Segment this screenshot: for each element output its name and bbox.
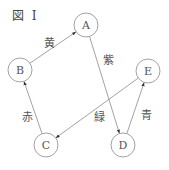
node-label-c: C [42, 139, 50, 152]
edge-label-d-e: 青 [141, 109, 152, 122]
edge-label-c-b: 赤 [22, 111, 33, 124]
edge-label-a-d: 紫 [103, 54, 114, 67]
edge-e-to-c [56, 78, 139, 138]
edges-group: 黄紫赤緑青 [22, 32, 152, 138]
node-label-b: B [16, 64, 24, 77]
edge-label-e-c: 緑 [94, 110, 105, 124]
node-label-a: A [81, 19, 91, 32]
edge-c-to-b [24, 81, 42, 133]
directed-graph: 黄紫赤緑青 ABCDE [0, 0, 169, 170]
nodes-group: ABCDE [8, 13, 160, 157]
node-label-e: E [144, 65, 152, 78]
edge-label-b-a: 黄 [44, 36, 55, 50]
node-label-d: D [119, 139, 128, 152]
edge-d-to-e [127, 82, 144, 133]
